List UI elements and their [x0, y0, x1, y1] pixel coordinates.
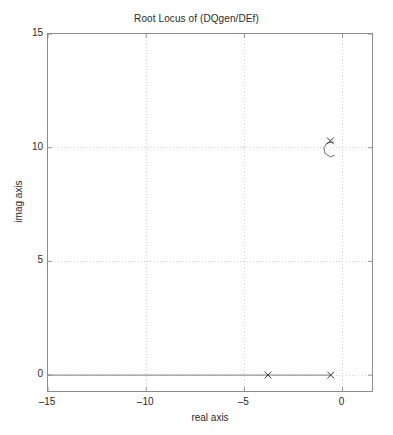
gridlines	[48, 34, 372, 391]
y-tick-label: 15	[5, 28, 43, 38]
axis-tick-marks	[48, 34, 372, 391]
y-axis-label: imag axis	[13, 162, 24, 242]
locus-branches	[48, 142, 334, 375]
root-locus-figure: Root Locus of (DQgen/DEf) imag axis real…	[0, 0, 393, 435]
pole-markers	[265, 137, 335, 378]
y-tick-label: 0	[5, 369, 43, 379]
y-tick-label: 10	[5, 142, 43, 152]
plot-area	[47, 33, 373, 392]
x-tick-label: –10	[123, 397, 167, 407]
x-axis-label: real axis	[47, 412, 373, 423]
x-tick-label: –5	[221, 397, 265, 407]
y-tick-label: 5	[5, 255, 43, 265]
x-tick-label: 0	[320, 397, 364, 407]
x-tick-label: –15	[25, 397, 69, 407]
plot-canvas	[48, 34, 372, 391]
chart-title: Root Locus of (DQgen/DEf)	[0, 13, 393, 24]
